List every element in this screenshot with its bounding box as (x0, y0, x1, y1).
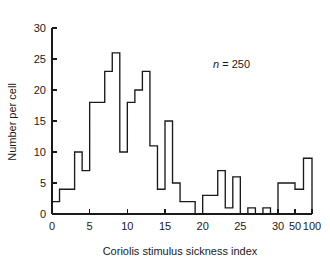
x-tick-label-5: 5 (87, 220, 93, 232)
x-tick-label-100: 100 (303, 220, 321, 232)
y-tick-label-15: 15 (34, 115, 46, 127)
x-tick-label-0: 0 (49, 220, 55, 232)
sample-size-value: = 250 (219, 58, 250, 70)
y-tick-label-25: 25 (34, 53, 46, 65)
x-axis-group: 05101520253050100 (49, 209, 321, 232)
x-tick-label-30: 30 (272, 220, 284, 232)
x-axis-title: Coriolis stimulus sickness index (103, 245, 258, 257)
y-tick-label-10: 10 (34, 146, 46, 158)
y-tick-label-30: 30 (34, 22, 46, 34)
y-tick-label-0: 0 (40, 208, 46, 220)
histogram-figure: 051015202530 05101520253050100 n = 250 C… (0, 0, 330, 266)
y-axis-ticks (52, 28, 57, 214)
histogram-step-outline (52, 53, 312, 214)
y-axis-group: 051015202530 (34, 22, 57, 220)
x-tick-label-25: 25 (234, 220, 246, 232)
histogram-series (52, 53, 312, 214)
x-tick-label-10: 10 (121, 220, 133, 232)
y-tick-label-20: 20 (34, 84, 46, 96)
sample-size-annotation: n = 250 (213, 58, 250, 70)
chart-canvas: 051015202530 05101520253050100 n = 250 C… (0, 0, 330, 266)
x-axis-tick-labels: 05101520253050100 (49, 220, 321, 232)
y-tick-label-5: 5 (40, 177, 46, 189)
x-axis-ticks (52, 209, 312, 214)
x-tick-label-50: 50 (289, 220, 301, 232)
y-axis-title: Number per cell (6, 83, 18, 161)
x-tick-label-15: 15 (159, 220, 171, 232)
y-axis-tick-labels: 051015202530 (34, 22, 46, 220)
x-tick-label-20: 20 (197, 220, 209, 232)
